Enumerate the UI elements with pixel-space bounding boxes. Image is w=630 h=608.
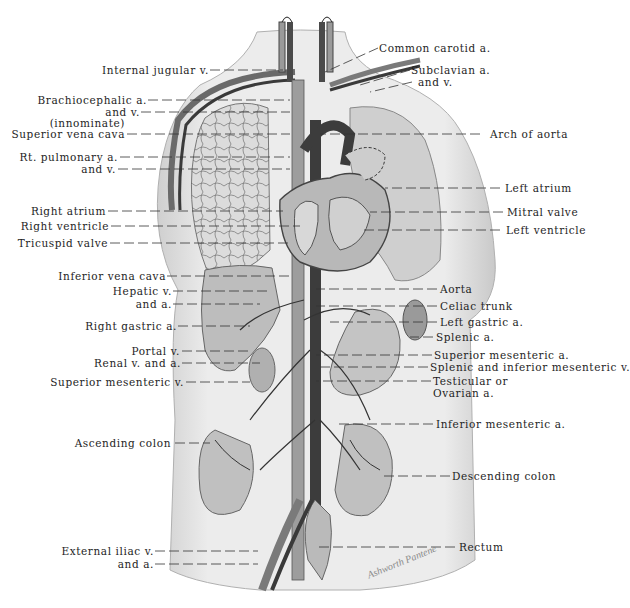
- label-descending-colon: Descending colon: [452, 470, 556, 482]
- label-ovarian-a: Ovarian a.: [433, 387, 494, 399]
- label-superior-mesenteric-a: Superior mesenteric a.: [434, 349, 569, 361]
- label-tricuspid-valve: Tricuspid valve: [18, 237, 108, 249]
- label-portal-v: Portal v.: [131, 345, 180, 357]
- label-common-carotid-a: Common carotid a.: [379, 42, 491, 54]
- label-splenic-a: Splenic a.: [436, 331, 494, 343]
- label-renal-v-a: Renal v. and a.: [94, 357, 181, 369]
- label-splenic-inferior-mesenteric-v: Splenic and inferior mesenteric v.: [430, 361, 630, 373]
- label-right-gastric-a: Right gastric a.: [85, 320, 177, 332]
- label-left-atrium: Left atrium: [505, 182, 572, 194]
- label-right-atrium: Right atrium: [31, 205, 106, 217]
- label-inferior-mesenteric-a: Inferior mesenteric a.: [436, 418, 565, 430]
- label-arch-of-aorta: Arch of aorta: [490, 128, 568, 140]
- label-hepatic-a: and a.: [136, 298, 172, 310]
- right-lung: [191, 103, 270, 282]
- label-ascending-colon: Ascending colon: [75, 437, 171, 449]
- kidney: [249, 348, 275, 392]
- label-right-ventricle: Right ventricle: [21, 220, 109, 232]
- label-rectum: Rectum: [459, 541, 504, 553]
- label-external-iliac-a: and a.: [118, 558, 154, 570]
- label-subclavian-a: Subclavian a.: [411, 64, 490, 76]
- label-celiac-trunk: Celiac trunk: [440, 300, 513, 312]
- label-mitral-valve: Mitral valve: [507, 206, 578, 218]
- label-rt-pulmonary-v: and v.: [81, 163, 116, 175]
- label-left-ventricle: Left ventricle: [506, 224, 586, 236]
- label-superior-vena-cava: Superior vena cava: [11, 128, 125, 140]
- label-subclavian-v: and v.: [418, 76, 453, 88]
- label-left-gastric-a: Left gastric a.: [440, 316, 523, 328]
- label-inferior-vena-cava: Inferior vena cava: [58, 270, 166, 282]
- label-rt-pulmonary-a: Rt. pulmonary a.: [20, 151, 118, 163]
- label-brachiocephalic-a: Brachiocephalic a.: [38, 94, 148, 106]
- label-testicular: Testicular or: [433, 375, 508, 387]
- label-internal-jugular-v: Internal jugular v.: [102, 64, 209, 76]
- label-aorta: Aorta: [440, 283, 472, 295]
- label-external-iliac-v: External iliac v.: [61, 545, 154, 557]
- label-superior-mesenteric-v: Superior mesenteric v.: [50, 376, 184, 388]
- label-hepatic-v: Hepatic v.: [113, 285, 172, 297]
